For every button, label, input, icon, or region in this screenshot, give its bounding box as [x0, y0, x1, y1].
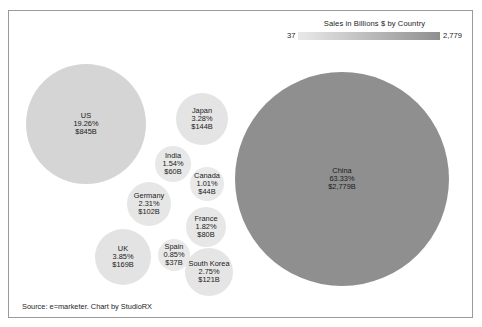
bubble-germany[interactable]: Germany2.31%$102B [127, 182, 171, 226]
legend: Sales in Billions $ by Country 37 2,779 [287, 19, 462, 40]
bubble-label-value: $845B [75, 128, 96, 136]
bubble-spain[interactable]: Spain0.85%$37B [158, 239, 190, 271]
bubble-label-value: $144B [191, 123, 212, 131]
bubble-label-value: $102B [138, 208, 159, 216]
legend-max-label: 2,779 [443, 31, 462, 40]
legend-min-label: 37 [287, 31, 295, 40]
bubble-label-value: $169B [112, 261, 133, 269]
legend-color-scale: 37 2,779 [287, 31, 462, 40]
chart-frame: China63.33%$2,779BUS19.26%$845BUK3.85%$1… [8, 10, 473, 318]
bubble-us[interactable]: US19.26%$845B [26, 64, 146, 184]
legend-gradient-bar [298, 32, 440, 40]
legend-title: Sales in Billions $ by Country [287, 19, 462, 28]
bubble-japan[interactable]: Japan3.28%$144B [176, 93, 228, 145]
bubble-uk[interactable]: UK3.85%$169B [95, 229, 151, 285]
bubble-label-value: $44B [198, 188, 215, 196]
bubble-south-korea[interactable]: South Korea2.75%$121B [185, 248, 233, 296]
bubble-canada[interactable]: Canada1.01%$44B [190, 167, 224, 201]
bubble-india[interactable]: India1.54%$60B [155, 146, 191, 182]
bubble-chart-plot-area: China63.33%$2,779BUS19.26%$845BUK3.85%$1… [9, 11, 472, 317]
bubble-label-value: $60B [164, 168, 181, 176]
bubble-france[interactable]: France1.82%$80B [186, 207, 226, 247]
bubble-label-value: $37B [165, 259, 182, 267]
bubble-label-value: $80B [197, 231, 214, 239]
bubble-label-value: $2,779B [328, 183, 356, 191]
source-note: Source: e=marketer. Chart by StudioRX [22, 302, 152, 311]
bubble-label-value: $121B [198, 276, 219, 284]
bubble-china[interactable]: China63.33%$2,779B [235, 72, 449, 286]
